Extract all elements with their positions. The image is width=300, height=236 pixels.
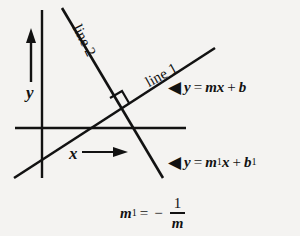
- left-arrow-icon: ◀: [168, 79, 179, 96]
- fraction: 1 m: [169, 196, 187, 231]
- minus-sign: −: [151, 206, 165, 221]
- fraction-numerator: 1: [171, 196, 185, 212]
- x-direction-arrow: [82, 147, 128, 157]
- plus-sign: +: [229, 155, 243, 170]
- intercept-variable: b: [239, 80, 247, 95]
- equals-sign: =: [137, 206, 151, 221]
- slope-variable: m: [205, 155, 217, 170]
- perpendicular-lines-diagram: y x line 2 line 1 ◀ y = m x + b ◀ y = m1…: [0, 0, 300, 236]
- slope-relationship-formula: m1 = − 1 m: [120, 196, 186, 231]
- x-variable: x: [217, 80, 225, 95]
- x-variable: x: [222, 155, 230, 170]
- fraction-denominator: m: [169, 214, 187, 231]
- x-axis-label: x: [69, 145, 78, 162]
- left-arrow-icon: ◀: [168, 154, 179, 171]
- y-axis-label: y: [26, 84, 34, 101]
- equation-lhs: y: [184, 155, 191, 170]
- y-direction-arrow: [26, 28, 36, 82]
- intercept-variable: b: [244, 155, 252, 170]
- formula-lhs-variable: m: [120, 206, 132, 221]
- plus-sign: +: [224, 80, 238, 95]
- intercept-subscript: 1: [251, 157, 256, 167]
- equals-sign: =: [191, 155, 205, 170]
- line-1-equation: ◀ y = m x + b: [168, 79, 246, 96]
- equals-sign: =: [191, 80, 205, 95]
- line-2-equation: ◀ y = m1 x + b1: [168, 154, 256, 171]
- slope-variable: m: [205, 80, 217, 95]
- equation-lhs: y: [184, 80, 191, 95]
